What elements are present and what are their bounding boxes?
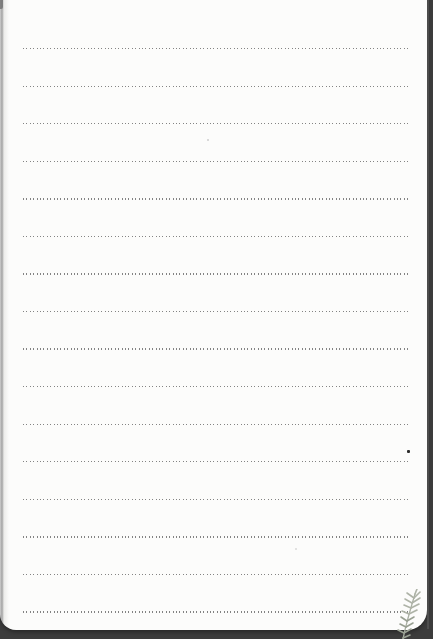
faint-speck (295, 548, 297, 550)
plant-sprig-icon (393, 589, 427, 639)
ruled-line (23, 348, 410, 349)
journal-scene (0, 0, 433, 639)
ruled-line (23, 236, 410, 237)
ruled-line (23, 198, 410, 199)
ruled-line (23, 311, 410, 312)
ruled-line (23, 536, 410, 537)
ruled-line (23, 161, 410, 162)
page-right-edge-shadow (427, 0, 429, 629)
ruled-lines (0, 0, 427, 629)
ruled-line (23, 611, 410, 612)
ruled-line (23, 499, 410, 500)
ink-dot (407, 450, 410, 453)
ruled-line (23, 86, 410, 87)
faint-speck (207, 139, 209, 141)
ruled-line (23, 386, 410, 387)
ruled-line (23, 123, 410, 124)
ruled-line (23, 574, 410, 575)
ruled-line (23, 48, 410, 49)
notebook-page (0, 0, 427, 630)
ruled-line (23, 461, 410, 462)
ruled-line (23, 424, 410, 425)
ruled-line (23, 273, 410, 274)
